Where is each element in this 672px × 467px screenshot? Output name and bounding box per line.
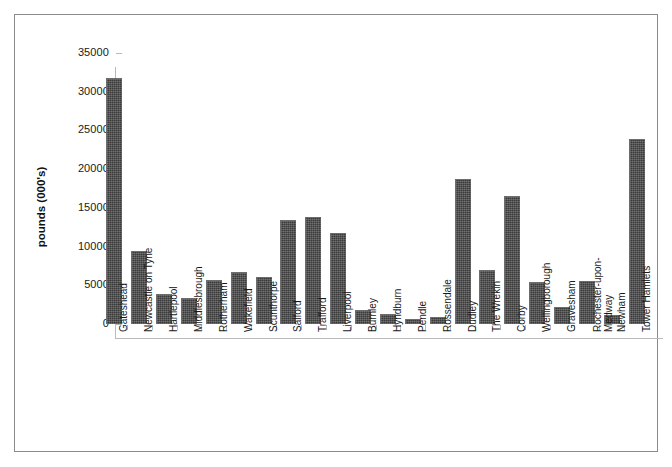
chart-frame: pounds (000's) 3500030000250002000015000… (14, 14, 658, 452)
x-axis-tick-label: Hartlepool (168, 286, 179, 332)
x-axis-tick-label-line: The Wrekin (491, 281, 502, 332)
x-axis-tick-label: Salford (292, 300, 303, 332)
x-axis-tick-label: Hyndburn (392, 289, 403, 332)
x-axis-tick-label: Rotherham (218, 283, 229, 332)
x-axis-tick-label-line: Rossendale (442, 279, 453, 332)
y-axis-tick-label: 5000 (23, 279, 109, 290)
x-axis-tick-label: Rochester-upon-Medway (592, 258, 614, 332)
x-axis-tick-label: Liverpool (342, 291, 353, 332)
x-axis-tick-label: Scunthorpe (268, 281, 279, 332)
x-axis-tick-label-line: Burnley (367, 298, 378, 332)
x-axis-tick-label: Corby (516, 305, 527, 332)
x-axis-tick-label-line: Pendle (417, 301, 428, 332)
x-axis-tick-label: Wellingborough (541, 263, 552, 332)
x-axis-tick-label: Pendle (417, 301, 428, 332)
y-axis-tick-label: 25000 (23, 124, 109, 135)
x-axis-tick-label: Gravesham (566, 280, 577, 332)
x-axis-tick-label: Wakefield (243, 288, 254, 332)
y-axis-tick-label: 20000 (23, 163, 109, 174)
x-axis-tick-label-line: Scunthorpe (268, 281, 279, 332)
x-axis-tick-label-line: Wellingborough (541, 263, 552, 332)
x-axis-tick-label: Newham (616, 293, 627, 332)
y-axis-tick-label: 0 (23, 318, 109, 329)
x-axis-tick-label-line: Middlesbrough (193, 266, 204, 332)
y-axis-tick-label: 35000 (23, 47, 109, 58)
x-axis-line (115, 338, 663, 339)
x-axis-tick-label: The Wrekin (491, 281, 502, 332)
x-axis-tick-label-line: Gravesham (566, 280, 577, 332)
y-axis-tick-label: 15000 (23, 202, 109, 213)
x-axis-tick-label: Newcastle on Tyne (143, 248, 154, 332)
x-axis-tick-label-line: Corby (516, 305, 527, 332)
x-axis-tick-label-line: Salford (292, 300, 303, 332)
y-axis-tick-label: 30000 (23, 86, 109, 97)
x-axis-tick-label: Burnley (367, 298, 378, 332)
x-axis-tick-label-line: Gateshead (118, 283, 129, 332)
x-axis-tick-label: Rossendale (442, 279, 453, 332)
x-axis-tick-label-line: Tower Hamlets (641, 266, 652, 332)
x-axis-tick-label: Trafford (317, 298, 328, 332)
x-axis-tick-label-line: Liverpool (342, 291, 353, 332)
x-axis-tick-label-line: Hyndburn (392, 289, 403, 332)
chart-page: pounds (000's) 3500030000250002000015000… (0, 0, 672, 467)
x-axis-tick-label-line: Hartlepool (168, 286, 179, 332)
x-axis-tick-label: Middlesbrough (193, 266, 204, 332)
x-axis-tick-label: Tower Hamlets (641, 266, 652, 332)
x-axis-tick-label-line: Rochester-upon- (592, 258, 603, 332)
x-axis-tick-label-line: Wakefield (243, 288, 254, 332)
x-axis-tick-label-line: Dudley (467, 301, 478, 332)
x-axis-tick-label: Dudley (467, 301, 478, 332)
y-axis-tick-label: 10000 (23, 241, 109, 252)
x-axis-tick-label-line: Trafford (317, 298, 328, 332)
x-axis-tick-label-line: Newham (616, 293, 627, 332)
x-axis-tick-label-line: Rotherham (218, 283, 229, 332)
x-axis-tick-label-line: Medway (603, 258, 614, 332)
x-axis-tick-label: Gateshead (118, 283, 129, 332)
x-axis-tick-label-line: Newcastle on Tyne (143, 248, 154, 332)
